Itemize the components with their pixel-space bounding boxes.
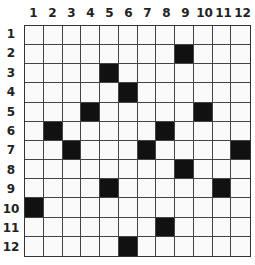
grid-cell-filled[interactable]: [156, 218, 175, 237]
grid-cell[interactable]: [231, 237, 250, 256]
grid-cell[interactable]: [194, 179, 213, 198]
grid-cell[interactable]: [213, 45, 232, 64]
grid-cell-filled[interactable]: [100, 179, 119, 198]
grid-cell[interactable]: [100, 198, 119, 217]
grid-cell[interactable]: [156, 26, 175, 45]
grid-cell[interactable]: [63, 103, 82, 122]
grid-cell[interactable]: [156, 198, 175, 217]
grid-cell[interactable]: [213, 122, 232, 141]
grid-cell[interactable]: [231, 64, 250, 83]
grid-cell[interactable]: [25, 141, 44, 160]
grid-cell[interactable]: [63, 160, 82, 179]
grid-cell[interactable]: [25, 237, 44, 256]
grid-cell[interactable]: [81, 218, 100, 237]
grid-cell[interactable]: [175, 141, 194, 160]
grid-cell[interactable]: [119, 64, 138, 83]
grid-cell[interactable]: [175, 122, 194, 141]
grid-cell[interactable]: [175, 103, 194, 122]
grid-cell[interactable]: [119, 103, 138, 122]
grid-cell[interactable]: [138, 198, 157, 217]
grid-cell[interactable]: [156, 83, 175, 102]
grid-cell[interactable]: [44, 237, 63, 256]
grid-cell[interactable]: [81, 26, 100, 45]
grid-cell[interactable]: [156, 160, 175, 179]
grid-cell[interactable]: [44, 218, 63, 237]
grid-cell[interactable]: [194, 218, 213, 237]
grid-cell[interactable]: [194, 26, 213, 45]
grid-cell[interactable]: [119, 141, 138, 160]
grid-cell[interactable]: [63, 237, 82, 256]
grid-cell[interactable]: [25, 45, 44, 64]
grid-cell[interactable]: [138, 45, 157, 64]
grid-cell[interactable]: [63, 198, 82, 217]
grid-cell[interactable]: [44, 83, 63, 102]
grid-cell[interactable]: [25, 218, 44, 237]
grid-cell[interactable]: [138, 160, 157, 179]
grid-cell[interactable]: [175, 26, 194, 45]
grid-cell[interactable]: [194, 83, 213, 102]
grid-cell[interactable]: [100, 45, 119, 64]
grid-cell[interactable]: [81, 83, 100, 102]
grid-cell[interactable]: [63, 122, 82, 141]
grid-cell[interactable]: [213, 237, 232, 256]
grid-cell[interactable]: [213, 198, 232, 217]
grid-cell[interactable]: [44, 45, 63, 64]
grid-cell[interactable]: [175, 64, 194, 83]
grid-cell[interactable]: [119, 179, 138, 198]
grid-cell-filled[interactable]: [156, 122, 175, 141]
grid-cell[interactable]: [194, 237, 213, 256]
grid-cell[interactable]: [100, 83, 119, 102]
grid-cell[interactable]: [81, 45, 100, 64]
grid-cell[interactable]: [138, 103, 157, 122]
grid-cell[interactable]: [194, 160, 213, 179]
grid-cell[interactable]: [156, 45, 175, 64]
grid-cell-filled[interactable]: [44, 122, 63, 141]
grid-cell[interactable]: [25, 103, 44, 122]
grid-cell[interactable]: [231, 160, 250, 179]
grid-cell[interactable]: [119, 26, 138, 45]
grid-cell[interactable]: [44, 103, 63, 122]
grid-cell[interactable]: [100, 103, 119, 122]
grid-cell[interactable]: [81, 141, 100, 160]
grid-cell-filled[interactable]: [231, 141, 250, 160]
grid-cell[interactable]: [194, 141, 213, 160]
grid-cell[interactable]: [175, 198, 194, 217]
grid-cell[interactable]: [194, 198, 213, 217]
grid-cell[interactable]: [138, 122, 157, 141]
grid-cell-filled[interactable]: [25, 198, 44, 217]
grid-cell[interactable]: [156, 103, 175, 122]
grid-cell[interactable]: [213, 160, 232, 179]
grid-cell[interactable]: [63, 45, 82, 64]
grid-cell[interactable]: [25, 26, 44, 45]
grid-cell[interactable]: [138, 26, 157, 45]
grid-cell[interactable]: [100, 160, 119, 179]
grid-cell[interactable]: [213, 141, 232, 160]
grid-cell[interactable]: [81, 179, 100, 198]
grid-cell[interactable]: [213, 83, 232, 102]
grid-cell[interactable]: [156, 237, 175, 256]
grid-cell[interactable]: [231, 83, 250, 102]
grid-cell[interactable]: [63, 218, 82, 237]
grid-cell[interactable]: [44, 141, 63, 160]
grid-cell-filled[interactable]: [194, 103, 213, 122]
grid-cell[interactable]: [100, 122, 119, 141]
grid-cell[interactable]: [81, 122, 100, 141]
grid-cell[interactable]: [100, 218, 119, 237]
grid-cell[interactable]: [231, 218, 250, 237]
grid-cell[interactable]: [81, 237, 100, 256]
grid-cell[interactable]: [63, 64, 82, 83]
grid-cell[interactable]: [44, 179, 63, 198]
grid-cell[interactable]: [213, 218, 232, 237]
grid-cell[interactable]: [138, 218, 157, 237]
grid-cell[interactable]: [231, 26, 250, 45]
grid-cell[interactable]: [25, 160, 44, 179]
grid-cell-filled[interactable]: [138, 141, 157, 160]
grid-cell[interactable]: [81, 64, 100, 83]
grid-cell-filled[interactable]: [100, 64, 119, 83]
grid-cell[interactable]: [119, 160, 138, 179]
grid-cell[interactable]: [100, 237, 119, 256]
grid-cell[interactable]: [231, 179, 250, 198]
grid-cell[interactable]: [213, 26, 232, 45]
grid-cell[interactable]: [175, 179, 194, 198]
grid-cell[interactable]: [156, 179, 175, 198]
